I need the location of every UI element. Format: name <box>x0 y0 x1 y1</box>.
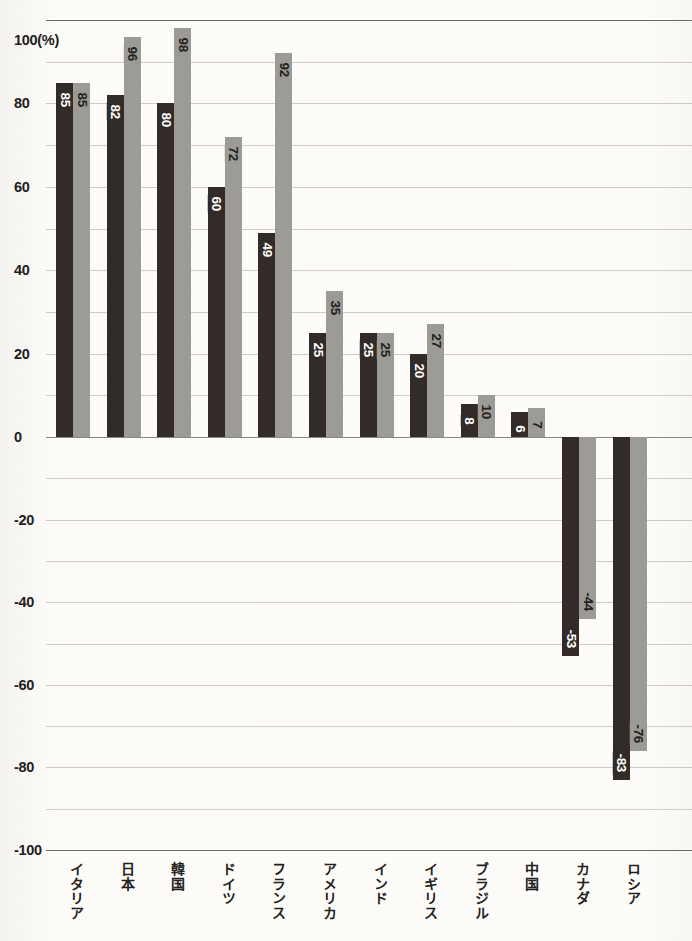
y-axis-tick--60: -60 <box>14 677 34 693</box>
y-axis-tick--20: -20 <box>14 512 34 528</box>
x-axis-label-6: インド <box>367 862 387 906</box>
gridline--100 <box>46 850 692 851</box>
bar-series-1-0: 85 <box>56 83 73 437</box>
gridline--90 <box>46 809 692 810</box>
bar-series-1-8: 8 <box>461 404 478 437</box>
bar-value-label: 25 <box>377 340 393 358</box>
bar-series-2-4: 92 <box>275 53 292 437</box>
bar-value-label: 6 <box>512 423 528 434</box>
y-axis-tick--80: -80 <box>14 759 34 775</box>
bar-value-label: 20 <box>411 361 427 379</box>
bar-series-2-10: -44 <box>579 437 596 619</box>
x-axis-label-1: 日本 <box>114 862 134 891</box>
x-axis-label-2: 韓国 <box>164 862 184 891</box>
bar-value-label: -76 <box>630 723 646 746</box>
bar-series-1-2: 80 <box>157 103 174 437</box>
bar-series-2-3: 72 <box>225 137 242 437</box>
bar-series-2-9: 7 <box>528 408 545 437</box>
bar-value-label: 60 <box>209 194 225 212</box>
bar-series-2-6: 25 <box>377 333 394 437</box>
bar-series-1-9: 6 <box>511 412 528 437</box>
bar-series-2-8: 10 <box>478 395 495 437</box>
x-axis-label-9: 中国 <box>518 862 538 891</box>
bar-value-label: 10 <box>479 403 495 421</box>
x-axis-labels: イタリア日本韓国ドイツフランスアメリカインドイギリスブラジル中国カナダロシア <box>0 856 692 941</box>
bar-series-2-2: 98 <box>174 28 191 437</box>
y-axis-tick-20: 20 <box>14 346 30 362</box>
bar-value-label: 35 <box>327 299 343 317</box>
bar-series-2-7: 27 <box>427 324 444 437</box>
bar-value-label: 27 <box>428 332 444 350</box>
bar-value-label: 80 <box>158 111 174 129</box>
bar-series-1-1: 82 <box>107 95 124 437</box>
x-axis-label-11: ロシア <box>620 862 640 906</box>
gridline-70 <box>46 145 692 146</box>
bar-series-2-11: -76 <box>630 437 647 751</box>
x-axis-label-4: フランス <box>265 862 285 920</box>
bar-value-label: 8 <box>462 415 478 426</box>
bar-value-label: 49 <box>259 240 275 258</box>
bar-value-label: 25 <box>310 340 326 358</box>
x-axis-label-5: アメリカ <box>316 862 336 920</box>
bar-chart: 100(%)806040200-20-40-60-80-100858582968… <box>0 0 692 941</box>
x-axis-label-8: ブラジル <box>468 862 488 920</box>
x-axis-label-3: ドイツ <box>215 862 235 906</box>
bar-value-label: 7 <box>529 419 545 430</box>
bar-value-label: 98 <box>175 36 191 54</box>
gridline-50 <box>46 229 692 230</box>
bar-value-label: 82 <box>107 103 123 121</box>
bar-value-label: 72 <box>226 144 242 162</box>
y-axis-tick-80: 80 <box>14 95 30 111</box>
bar-series-2-1: 96 <box>124 37 141 437</box>
y-axis-tick-0: 0 <box>14 429 22 445</box>
gridline-30 <box>46 312 692 313</box>
bar-value-label: 25 <box>360 340 376 358</box>
bar-value-label: -44 <box>580 591 596 614</box>
bar-series-1-7: 20 <box>410 354 427 437</box>
gridline-40 <box>46 270 692 271</box>
bar-value-label: -53 <box>563 628 579 651</box>
bar-series-1-5: 25 <box>309 333 326 437</box>
plot-area: 100(%)806040200-20-40-60-80-100858582968… <box>0 0 692 941</box>
bar-series-2-0: 85 <box>73 83 90 437</box>
y-axis-tick-100: 100(%) <box>14 32 59 48</box>
bar-value-label: 96 <box>124 44 140 62</box>
bar-series-1-4: 49 <box>258 233 275 437</box>
bar-value-label: 92 <box>276 61 292 79</box>
bar-value-label: 85 <box>74 90 90 108</box>
x-axis-label-10: カナダ <box>569 862 589 906</box>
gridline--50 <box>46 644 692 645</box>
bar-series-2-5: 35 <box>326 291 343 437</box>
gridline--80 <box>46 767 692 768</box>
gridline-60 <box>46 187 692 188</box>
x-axis-label-0: イタリア <box>63 862 83 920</box>
bar-value-label: 85 <box>57 90 73 108</box>
gridline-90 <box>46 62 692 63</box>
x-axis-label-7: イギリス <box>417 862 437 920</box>
gridline-80 <box>46 103 692 104</box>
bar-series-1-3: 60 <box>208 187 225 437</box>
bar-value-label: -83 <box>613 752 629 775</box>
gridline--70 <box>46 726 692 727</box>
bar-series-1-10: -53 <box>562 437 579 656</box>
gridline--60 <box>46 685 692 686</box>
bar-series-1-11: -83 <box>613 437 630 780</box>
y-axis-tick-60: 60 <box>14 179 30 195</box>
gridline-100 <box>46 20 692 21</box>
y-axis-tick-40: 40 <box>14 262 30 278</box>
y-axis-tick--40: -40 <box>14 594 34 610</box>
bar-series-1-6: 25 <box>360 333 377 437</box>
